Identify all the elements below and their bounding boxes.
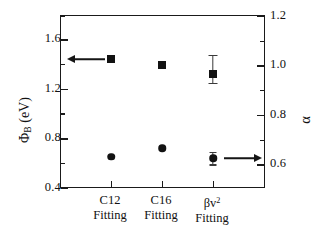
figure: ΦB (eV) α: [0, 0, 329, 239]
left-tick-0.8: [61, 138, 68, 139]
error-bar-phib-bv2: [212, 55, 213, 83]
error-cap-bottom-alpha-bv2: [210, 164, 217, 165]
data-point-phib-bv2: [209, 70, 217, 78]
x-category-label-c12: C12 Fitting: [93, 193, 126, 223]
data-point-phib-c12: [107, 55, 115, 63]
right-tick-label-0.6: 0.6: [270, 156, 286, 171]
data-point-alpha-bv2: [209, 154, 217, 162]
data-point-phib-c16: [158, 61, 166, 69]
left-minor-tick-1.0: [61, 113, 65, 114]
left-minor-tick-1.8: [61, 16, 65, 17]
arrow-shaft: [224, 157, 256, 159]
right-tick-0.6: [257, 164, 264, 165]
left-tick-0.4: [61, 188, 68, 189]
x-category-line1: C16: [144, 193, 177, 208]
x-category-label-c16: C16 Fitting: [144, 193, 177, 223]
left-minor-tick-1.4: [61, 64, 65, 65]
data-point-alpha-c12: [107, 153, 115, 161]
x-category-line1-base: βv: [204, 196, 217, 210]
left-tick-label-0.8: 0.8: [45, 130, 61, 145]
right-axis-title: α: [297, 116, 314, 124]
right-tick-label-0.8: 0.8: [270, 106, 286, 121]
x-category-line1: βv2: [195, 193, 228, 211]
x-category-label-bv2: βv2 Fitting: [195, 193, 228, 226]
error-cap-bottom-phib-bv2: [209, 83, 218, 84]
right-minor-tick-1.1: [260, 41, 264, 42]
x-category-line1-sup: 2: [216, 196, 220, 205]
left-minor-tick-0.6: [61, 163, 65, 164]
x-category-line2: Fitting: [93, 208, 126, 223]
left-tick-label-1.2: 1.2: [45, 80, 61, 95]
x-category-line2: Fitting: [195, 211, 228, 226]
left-tick-1.6: [61, 39, 68, 40]
x-tick-c12: [111, 181, 112, 187]
left-axis-title-unit: (eV): [17, 97, 32, 126]
left-tick-label-1.6: 1.6: [45, 31, 61, 46]
left-tick-label-0.4: 0.4: [45, 179, 61, 194]
plot-area: [60, 15, 265, 188]
left-axis-title-symbol: Φ: [17, 132, 32, 142]
right-minor-tick-0.7: [260, 140, 264, 141]
data-point-alpha-c16: [158, 144, 166, 152]
right-axis-arrow: [224, 153, 262, 163]
left-axis-title: ΦB (eV): [17, 97, 33, 143]
x-tick-c16: [162, 181, 163, 187]
left-axis-arrow: [67, 54, 105, 64]
left-tick-1.2: [61, 89, 68, 90]
right-tick-label-1.0: 1.0: [270, 57, 286, 72]
arrow-shaft: [73, 58, 105, 60]
right-tick-0.8: [257, 115, 264, 116]
right-tick-label-1.2: 1.2: [270, 8, 286, 23]
error-cap-top-alpha-bv2: [210, 152, 217, 153]
x-category-line1: C12: [93, 193, 126, 208]
right-tick-1.0: [257, 65, 264, 66]
error-cap-top-phib-bv2: [209, 55, 218, 56]
x-tick-bv2: [213, 181, 214, 187]
x-category-line2: Fitting: [144, 208, 177, 223]
right-tick-1.2: [257, 16, 264, 17]
arrow-head-right-icon: [254, 154, 262, 162]
left-axis-title-subscript: B: [23, 126, 33, 132]
right-minor-tick-0.9: [260, 90, 264, 91]
